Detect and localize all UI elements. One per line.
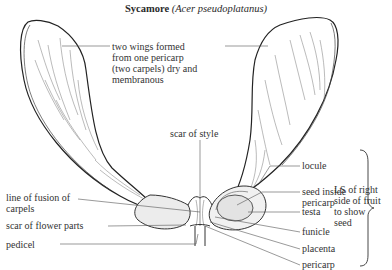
label-ls-note: LS of right side of fruit to show seed [334,184,381,228]
label-wings: two wings formed from one pericarp (two … [112,41,197,85]
label-testa: testa [302,206,320,217]
label-line-of-fusion: line of fusion of carpels [6,192,70,214]
label-pericarp: pericarp [302,259,335,270]
right-wing [232,18,338,200]
label-locule: locule [302,160,326,171]
fruit-body [135,186,266,246]
seed [217,195,253,221]
label-scar-of-style: scar of style [170,128,218,139]
label-placenta: placenta [302,243,335,254]
label-funicle: funicle [302,226,330,237]
label-scar-of-flower-parts: scar of flower parts [6,220,83,231]
label-pedicel: pedicel [6,239,35,250]
